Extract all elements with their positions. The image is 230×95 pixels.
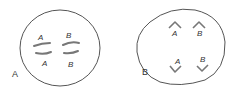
cell-membrane-b: [137, 9, 225, 84]
cell-membrane-a: [20, 10, 100, 86]
panel-a: A B A B A: [12, 10, 100, 86]
chromosome-a-top: [169, 22, 181, 28]
chromosome-label: A: [37, 33, 43, 42]
chromosome-label: A: [174, 57, 180, 66]
chromosome-label: B: [68, 60, 74, 69]
panel-b: A B A B B: [137, 9, 225, 84]
chromosome-label: A: [41, 59, 47, 68]
chromosome-a-bottom: [36, 52, 51, 54]
chromosome-label: B: [66, 31, 72, 40]
diagram-canvas: A B A B A A B A B B: [0, 0, 230, 95]
chromosome-b-top: [63, 42, 79, 45]
chromosome-label: A: [171, 29, 177, 38]
chromosome-a-bottom: [170, 66, 181, 72]
chromosome-label: B: [200, 55, 206, 64]
panel-label-b: B: [142, 67, 148, 77]
panel-label-a: A: [12, 69, 18, 79]
chromosome-b-top: [193, 22, 205, 28]
chromosome-b-bottom: [197, 65, 208, 71]
chromosome-a-top: [34, 43, 50, 46]
chromosome-label: B: [197, 29, 203, 38]
chromosome-b-bottom: [64, 51, 78, 53]
